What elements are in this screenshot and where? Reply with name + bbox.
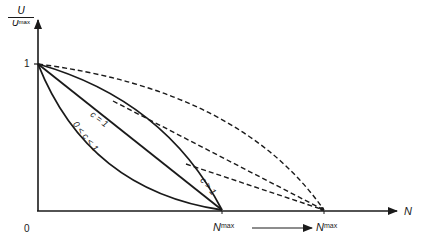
y-axis-label: U Umax	[8, 6, 34, 28]
origin-label: 0	[24, 224, 30, 234]
y-label-numerator: U	[8, 6, 34, 16]
y-label-denominator: Umax	[8, 19, 34, 28]
curve-c-equals-1	[38, 64, 222, 210]
x-axis-label: N	[404, 206, 412, 217]
diagram-canvas	[0, 0, 424, 244]
convergence-point	[320, 207, 324, 211]
x-tick-label-nmax-1: Nmax	[213, 222, 234, 233]
x-tick-label-nmax-2: Nmax	[316, 222, 337, 233]
y-tick-label: 1	[24, 59, 30, 69]
